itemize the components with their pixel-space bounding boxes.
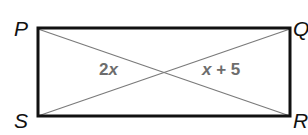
vertex-s-label: S xyxy=(14,109,28,132)
segment-label-2x: 2x xyxy=(99,60,119,79)
vertex-p-label: P xyxy=(14,17,28,40)
rectangle-diagram: P Q R S 2x x + 5 xyxy=(0,0,308,135)
segment-label-x-plus-5: x + 5 xyxy=(201,60,240,79)
vertex-r-label: R xyxy=(293,109,308,132)
vertex-q-label: Q xyxy=(293,17,308,40)
